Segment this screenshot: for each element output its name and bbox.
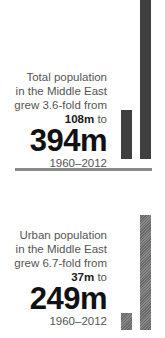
total-line1: Total population: [14, 70, 107, 84]
urban-population-panel: Urban population in the Middle East grew…: [0, 171, 165, 338]
total-to-value: 394m: [14, 126, 107, 156]
urban-bar-2012: [140, 215, 151, 330]
total-population-panel: Total population in the Middle East grew…: [0, 0, 165, 168]
total-bar-2012: [140, 0, 151, 159]
urban-to-value: 249m: [14, 284, 107, 314]
urban-bar-1960: [121, 313, 132, 330]
urban-line3: grew 6.7-fold from: [14, 256, 107, 270]
total-bar-1960: [121, 110, 132, 159]
total-line2: in the Middle East: [14, 84, 107, 98]
urban-line2: in the Middle East: [14, 242, 107, 256]
total-population-text: Total population in the Middle East grew…: [14, 70, 107, 170]
urban-line1: Urban population: [14, 228, 107, 242]
urban-years: 1960–2012: [14, 314, 107, 328]
urban-population-text: Urban population in the Middle East grew…: [14, 228, 107, 328]
total-line3: grew 3.6-fold from: [14, 98, 107, 112]
